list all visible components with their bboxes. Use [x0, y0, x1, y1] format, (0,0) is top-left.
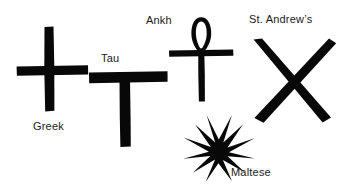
saltire-cross-icon: [249, 37, 335, 127]
greek-cross-figure: [16, 26, 92, 114]
ankh-figure: [168, 14, 236, 106]
greek-cross-label: Greek: [33, 120, 64, 133]
cross-types-illustration: Greek Tau Ankh Maltese St. Andrew’s: [0, 0, 339, 195]
tau-cross-label: Tau: [101, 52, 119, 65]
greek-cross-icon: [16, 26, 92, 114]
ankh-label: Ankh: [146, 14, 172, 27]
ankh-icon: [168, 14, 236, 106]
maltese-cross-label: Maltese: [231, 166, 271, 179]
tau-cross-icon: [88, 70, 170, 150]
st-andrews-cross-label: St. Andrew’s: [249, 13, 312, 26]
tau-cross-figure: [88, 70, 170, 150]
st-andrews-cross-figure: [249, 37, 335, 127]
